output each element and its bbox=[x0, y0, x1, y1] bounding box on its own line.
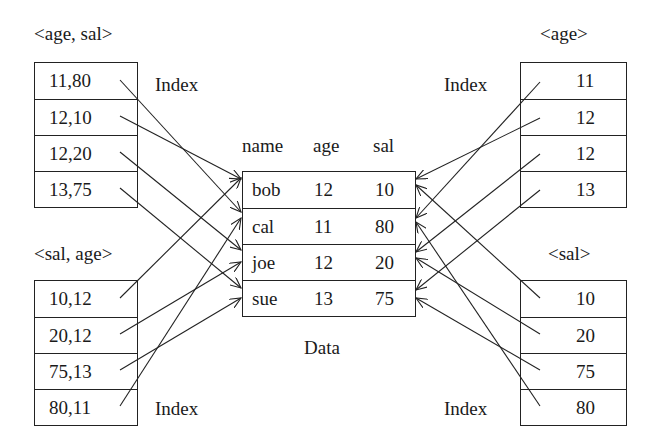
left-top-index-box: 11,80 12,10 12,20 13,75 bbox=[34, 62, 138, 208]
left-top-index-caption: Index bbox=[155, 75, 198, 94]
index-entry: 10,12 bbox=[35, 281, 137, 317]
arrow bbox=[120, 188, 241, 288]
index-entry-value: 80 bbox=[576, 390, 595, 426]
index-entry-value: 12,20 bbox=[49, 136, 92, 172]
index-entry: 13 bbox=[521, 171, 626, 207]
index-entry: 12,20 bbox=[35, 135, 137, 171]
data-cell-name: joe bbox=[252, 245, 275, 281]
data-cell-name: sue bbox=[252, 281, 277, 317]
index-entry-value: 10 bbox=[576, 281, 595, 317]
arrow bbox=[120, 116, 241, 179]
index-entry: 12,10 bbox=[35, 99, 137, 135]
arrow bbox=[120, 298, 241, 370]
index-entry-value: 20 bbox=[576, 318, 595, 354]
arrow bbox=[120, 262, 241, 334]
index-entry: 11,80 bbox=[35, 63, 137, 99]
arrow bbox=[120, 178, 241, 298]
data-row: bob 12 10 bbox=[243, 172, 415, 208]
arrow bbox=[120, 218, 241, 406]
right-bottom-index-title: <sal> bbox=[548, 244, 591, 263]
left-bottom-index-caption: Index bbox=[155, 399, 198, 418]
index-entry-value: 75 bbox=[576, 354, 595, 390]
data-cell-age: 13 bbox=[314, 281, 333, 317]
data-cell-sal: 75 bbox=[375, 281, 394, 317]
data-header-sal: sal bbox=[373, 136, 394, 155]
data-table-box: bob 12 10 cal 11 80 joe 12 20 sue 13 75 bbox=[242, 171, 416, 317]
data-row: joe 12 20 bbox=[243, 244, 415, 280]
index-entry-value: 11,80 bbox=[49, 63, 91, 99]
index-entry-value: 12 bbox=[576, 100, 595, 136]
data-cell-age: 12 bbox=[314, 245, 333, 281]
index-entry-value: 20,12 bbox=[49, 318, 92, 354]
data-row: sue 13 75 bbox=[243, 280, 415, 316]
data-cell-sal: 80 bbox=[375, 209, 394, 245]
index-entry-value: 80,11 bbox=[49, 390, 91, 426]
left-bottom-index-box: 10,12 20,12 75,13 80,11 bbox=[34, 280, 138, 426]
index-entry-value: 12 bbox=[576, 136, 595, 172]
right-top-index-caption: Index bbox=[444, 75, 487, 94]
data-cell-age: 11 bbox=[314, 209, 332, 245]
index-entry: 80 bbox=[521, 389, 626, 425]
index-entry: 13,75 bbox=[35, 171, 137, 207]
index-entry: 75 bbox=[521, 353, 626, 389]
index-entry: 80,11 bbox=[35, 389, 137, 425]
index-entry: 20 bbox=[521, 317, 626, 353]
data-cell-sal: 20 bbox=[375, 245, 394, 281]
index-entry: 12 bbox=[521, 99, 626, 135]
index-entry: 20,12 bbox=[35, 317, 137, 353]
left-bottom-index-title: <sal, age> bbox=[34, 244, 112, 263]
index-entry-value: 10,12 bbox=[49, 281, 92, 317]
data-row: cal 11 80 bbox=[243, 208, 415, 244]
index-entry: 11 bbox=[521, 63, 626, 99]
index-entry: 10 bbox=[521, 281, 626, 317]
index-entry-value: 13 bbox=[576, 172, 595, 208]
right-bottom-index-caption: Index bbox=[444, 399, 487, 418]
index-entry-value: 11 bbox=[576, 63, 594, 99]
data-cell-name: cal bbox=[252, 209, 274, 245]
index-entry-value: 12,10 bbox=[49, 100, 92, 136]
index-entry-value: 13,75 bbox=[49, 172, 92, 208]
left-top-index-title: <age, sal> bbox=[34, 24, 112, 43]
index-entry-value: 75,13 bbox=[49, 354, 92, 390]
arrow bbox=[120, 152, 241, 250]
data-header-age: age bbox=[313, 136, 339, 155]
index-entry: 12 bbox=[521, 135, 626, 171]
right-top-index-box: 11 12 12 13 bbox=[520, 62, 627, 208]
arrow bbox=[120, 80, 241, 212]
data-cell-name: bob bbox=[252, 172, 281, 208]
data-cell-sal: 10 bbox=[375, 172, 394, 208]
data-table-caption: Data bbox=[304, 338, 340, 357]
right-top-index-title: <age> bbox=[540, 24, 588, 43]
index-entry: 75,13 bbox=[35, 353, 137, 389]
data-cell-age: 12 bbox=[314, 172, 333, 208]
right-bottom-index-box: 10 20 75 80 bbox=[520, 280, 627, 426]
data-header-name: name bbox=[242, 136, 283, 155]
